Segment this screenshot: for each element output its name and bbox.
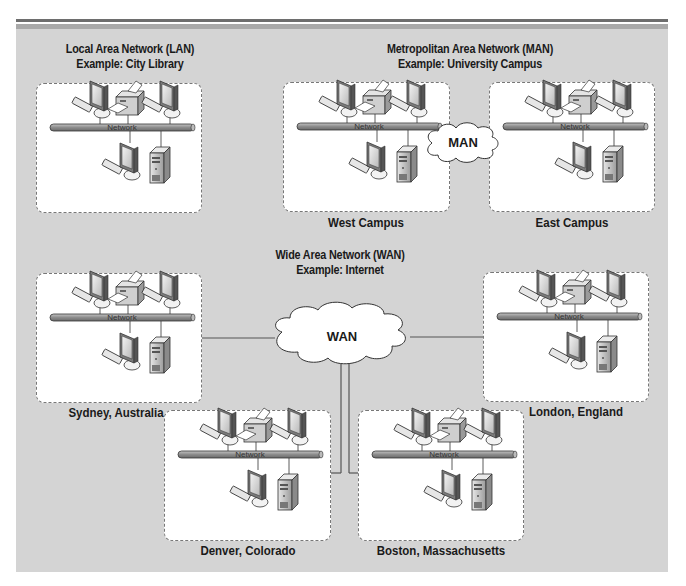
lan-library-network	[50, 81, 195, 183]
site-label-boston: Boston, Massachusetts	[372, 544, 510, 558]
east-campus-network	[503, 80, 648, 182]
site-label-sydney: Sydney, Australia	[61, 406, 171, 420]
bus-label: Network	[554, 312, 584, 321]
site-label-east-campus: East Campus	[517, 216, 627, 230]
denver-network	[178, 408, 323, 510]
bus-label: Network	[354, 122, 384, 131]
sydney-network	[50, 271, 195, 373]
bus-label: Network	[429, 450, 459, 459]
bus-label: Network	[235, 450, 265, 459]
wan-cloud-icon: WAN	[276, 302, 406, 364]
wan-cloud-label: WAN	[327, 329, 357, 344]
site-label-london: London, England	[521, 405, 631, 419]
boston-network	[372, 408, 517, 510]
site-label-denver: Denver, Colorado	[184, 544, 313, 558]
west-campus-network	[297, 80, 442, 182]
network-nodes-layer: Network Network Network Network Network …	[0, 0, 686, 586]
london-network	[497, 270, 642, 372]
bus-label: Network	[107, 313, 137, 322]
bus-label: Network	[107, 123, 137, 132]
bus-label: Network	[560, 122, 590, 131]
site-label-west-campus: West Campus	[311, 216, 421, 230]
man-cloud-label: MAN	[448, 135, 478, 150]
